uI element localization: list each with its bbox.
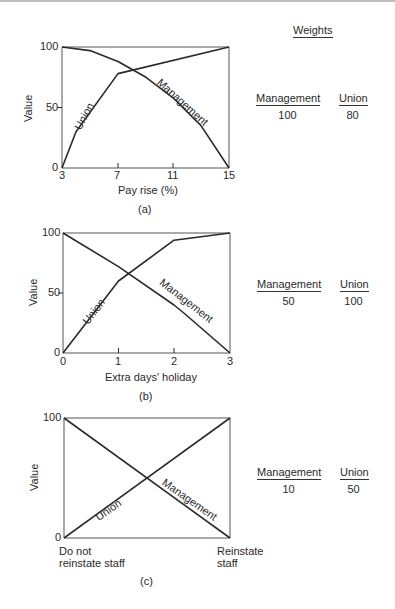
panel-b-weight-union-label: Union: [340, 278, 369, 292]
panel-c-caption: (c): [140, 575, 153, 587]
panel-b-ylabel: Value: [27, 279, 39, 306]
panel-a-caption: (a): [138, 203, 151, 215]
panel-a-weight-management-value: 100: [256, 109, 319, 121]
panel-b-frame: [63, 233, 230, 353]
panel-b-management-line: [63, 233, 230, 353]
panel-c-ytick-0: 0: [55, 531, 61, 543]
panel-a-weight-union-value: 80: [339, 109, 366, 121]
panel-c-weight-management-value: 10: [257, 483, 320, 495]
panel-a-ytick-50-label: 50: [46, 101, 58, 113]
panel-a-ylabel: Value: [22, 95, 34, 122]
panel-c-weight-union-label: Union: [340, 466, 369, 480]
panel-b-caption: (b): [139, 390, 152, 402]
panel-c-ylabel: Value: [28, 464, 40, 491]
panel-c-xtick-left-line2: reinstate staff: [59, 557, 125, 569]
panel-a-weight-union-label: Union: [339, 92, 368, 106]
panel-b-union-line: [63, 233, 230, 353]
panel-b-ytick-50-label: 50: [48, 286, 60, 298]
panel-b-xtick-3: 3: [227, 355, 233, 367]
panel-b-xtick-1-label: 1: [115, 355, 121, 367]
panel-a-xtick-11-label: 11: [167, 169, 178, 181]
panel-c-xtick-right-line2: staff: [217, 557, 238, 569]
panel-b-weight-union-value: 100: [340, 295, 367, 307]
panel-b-plot: [58, 233, 230, 353]
panel-a-xlabel: Pay rise (%): [118, 184, 178, 196]
panel-a-xtick-15: 15: [223, 169, 235, 181]
panel-a-ytick-0: 0: [52, 161, 58, 173]
panel-c-ytick-100: 100: [43, 411, 61, 423]
panel-c-weight-union-value: 50: [340, 483, 367, 495]
panel-c-weight-management-label: Management: [257, 466, 321, 480]
panel-b-xlabel: Extra days' holiday: [105, 371, 197, 383]
panel-a-xtick-3: 3: [59, 169, 65, 181]
panel-c-xtick-right-line1: Reinstate: [217, 545, 263, 557]
panel-a-weight-management-label: Management: [256, 92, 320, 106]
panel-c-xtick-left-line1: Do not: [59, 545, 91, 557]
panel-b-xtick-0: 0: [60, 355, 66, 367]
panel-b-weight-management-value: 50: [257, 295, 320, 307]
panel-a-ytick-100: 100: [40, 40, 58, 52]
panel-c-plot: [64, 418, 230, 538]
panel-b-weight-management-label: Management: [257, 278, 321, 292]
panel-b-ytick-100: 100: [42, 226, 60, 238]
panel-a-xtick-7-label: 7: [114, 169, 120, 181]
panel-b-xtick-2-label: 2: [171, 355, 177, 367]
